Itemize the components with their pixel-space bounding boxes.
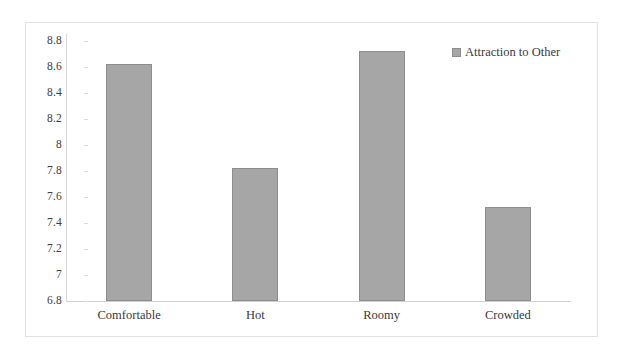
y-axis-tick-label: 8 bbox=[26, 139, 62, 150]
x-axis-label-hot: Hot bbox=[192, 307, 318, 323]
y-axis-tick-label: 8.6 bbox=[26, 61, 62, 72]
x-axis-label-roomy: Roomy bbox=[319, 307, 445, 323]
bar-crowded bbox=[485, 207, 531, 301]
bar-roomy bbox=[359, 51, 405, 301]
legend-swatch-attraction-to-other bbox=[452, 48, 461, 57]
y-axis-tick-label: 8.4 bbox=[26, 87, 62, 98]
y-axis-tick-label: 7.8 bbox=[26, 165, 62, 176]
bar-comfortable bbox=[106, 64, 152, 301]
x-axis-label-crowded: Crowded bbox=[445, 307, 571, 323]
x-axis-category-labels: ComfortableHotRoomyCrowded bbox=[66, 307, 571, 329]
x-axis-line bbox=[66, 301, 571, 302]
y-axis-tick-labels: 8.88.68.48.287.87.67.47.276.8 bbox=[22, 0, 62, 356]
y-axis-tick-label: 7.4 bbox=[26, 217, 62, 228]
legend-label-attraction-to-other: Attraction to Other bbox=[465, 45, 560, 59]
y-axis-tick-label: 7.2 bbox=[26, 243, 62, 254]
bar-chart: 8.88.68.48.287.87.67.47.276.8 Comfortabl… bbox=[0, 0, 623, 356]
chart-legend: Attraction to Other bbox=[452, 45, 560, 59]
y-axis-tick-label: 7 bbox=[26, 269, 62, 280]
y-axis-tick-label: 7.6 bbox=[26, 191, 62, 202]
y-axis-tick-mark bbox=[84, 301, 88, 302]
bars-layer bbox=[66, 30, 571, 301]
bar-hot bbox=[232, 168, 278, 301]
y-axis-tick-label: 8.2 bbox=[26, 113, 62, 124]
y-axis-tick-label: 6.8 bbox=[26, 295, 62, 306]
y-axis-tick-label: 8.8 bbox=[26, 35, 62, 46]
x-axis-label-comfortable: Comfortable bbox=[66, 307, 192, 323]
